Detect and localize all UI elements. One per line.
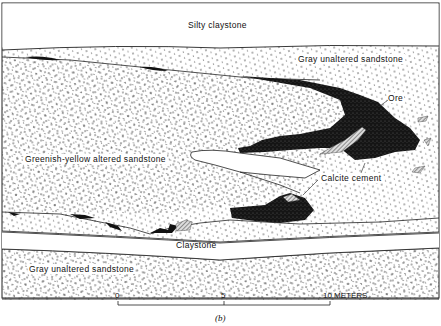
scale-tick-5: 5 <box>221 291 225 300</box>
label-greenish-yellow-altered-sandstone: Greenish-yellow altered sandstone <box>24 154 167 164</box>
figure-caption: (b) <box>215 313 226 323</box>
label-gray-sandstone-lower: Gray unaltered sandstone <box>28 264 135 274</box>
label-silty-claystone: Silty claystone <box>188 20 247 30</box>
label-ore: Ore <box>387 93 404 103</box>
scale-tick-0: 0 <box>115 291 119 300</box>
scale-tick-10: 10 METERS <box>323 291 367 300</box>
label-calcite-cement: Calcite cement <box>320 173 382 183</box>
label-gray-sandstone-upper: Gray unaltered sandstone <box>296 54 405 64</box>
label-claystone: Claystone <box>176 240 217 250</box>
